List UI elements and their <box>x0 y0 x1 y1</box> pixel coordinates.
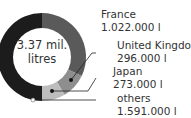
label-name: Japan <box>113 65 163 78</box>
dot-others <box>31 98 35 102</box>
dot-japan <box>50 89 54 93</box>
label-others: others 1.591.000 l <box>117 92 177 118</box>
label-name: France <box>101 8 161 21</box>
dot-france <box>55 10 59 14</box>
total-unit: litres <box>12 52 72 66</box>
label-united-kingdom: United Kingdom 296.000 l <box>117 39 191 65</box>
label-france: France 1.022.000 l <box>101 8 161 34</box>
label-value: 296.000 l <box>117 52 191 65</box>
label-value: 1.022.000 l <box>101 21 161 34</box>
label-value: 1.591.000 l <box>117 105 177 118</box>
label-name: United Kingdom <box>117 39 191 52</box>
label-japan: Japan 273.000 l <box>113 65 163 91</box>
dot-uk <box>69 78 73 82</box>
label-name: others <box>117 92 177 105</box>
donut-center-label: 3.37 mil. litres <box>12 38 72 66</box>
label-value: 273.000 l <box>113 78 163 91</box>
total-value: 3.37 mil. <box>12 38 72 52</box>
